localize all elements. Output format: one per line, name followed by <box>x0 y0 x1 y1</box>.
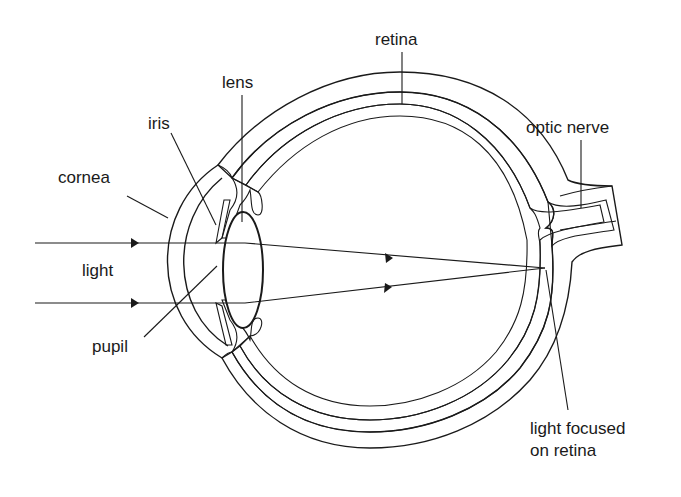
label-cornea: cornea <box>58 168 110 188</box>
inner-dark-layer <box>240 104 604 420</box>
label-pupil: pupil <box>92 337 128 357</box>
choroid-retina-layer <box>232 92 554 432</box>
label-light: light <box>82 261 113 281</box>
arrow-icon <box>131 298 139 308</box>
arrow-icon <box>384 283 392 293</box>
lens <box>223 212 263 328</box>
optic-nerve <box>548 186 616 246</box>
arrow-icon <box>131 238 139 248</box>
label-optic-nerve: optic nerve <box>526 118 609 138</box>
label-light-focused-line2: on retina <box>530 441 596 461</box>
label-iris: iris <box>148 114 170 134</box>
label-light-focused-line1: light focused <box>530 419 625 439</box>
label-retina: retina <box>375 30 418 50</box>
label-lens: lens <box>222 73 253 93</box>
